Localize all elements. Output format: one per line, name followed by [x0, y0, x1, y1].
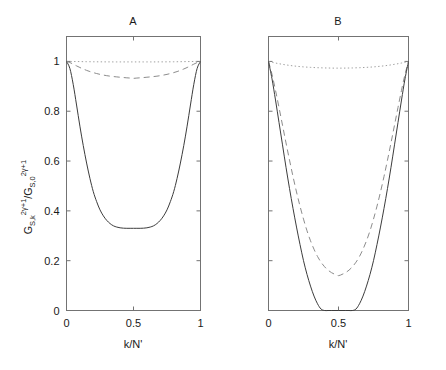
- ylabel-sub-2: S,0: [28, 176, 37, 187]
- ylabel-base-1: G: [22, 226, 34, 234]
- ylabel-base-2: G: [22, 188, 34, 196]
- panel-a: A 00.20.40.60.8100.51 k/N': [44, 15, 203, 350]
- y-tick-label: 0.6: [44, 155, 59, 167]
- y-tick-label: 0.8: [44, 105, 59, 117]
- shared-y-axis-label: GS,k2γ+1/GS,02γ+1: [19, 160, 37, 234]
- ylabel-sup-1: 2γ+1: [19, 199, 28, 215]
- panel-a-ticks: [67, 37, 201, 311]
- panel-a-title: A: [129, 15, 137, 27]
- panel-b: B 00.51 k/N': [265, 15, 411, 350]
- panel-b-title: B: [334, 15, 341, 27]
- y-tick-label: 0.2: [44, 255, 59, 267]
- y-tick-label: 0: [53, 305, 59, 317]
- x-tick-label: 0.5: [331, 317, 346, 329]
- curve-dashed: [67, 61, 201, 78]
- y-tick-label: 1: [53, 55, 59, 67]
- panel-b-curves: [269, 61, 409, 310]
- y-tick-label: 0.4: [44, 205, 59, 217]
- panel-a-axes-frame: [67, 37, 201, 311]
- x-tick-label: 0: [63, 317, 69, 329]
- curve-dashed: [269, 61, 409, 275]
- ylabel-sup-2: 2γ+1: [19, 160, 28, 176]
- curve-solid: [67, 61, 201, 228]
- panel-b-tick-labels: 00.51: [265, 317, 411, 329]
- x-tick-label: 0: [265, 317, 271, 329]
- curve-dotted: [269, 61, 409, 68]
- ylabel-sub-1: S,k: [28, 215, 37, 226]
- curve-solid: [269, 61, 409, 310]
- panel-a-x-axis-label: k/N': [124, 338, 143, 350]
- figure-canvas: GS,k2γ+1/GS,02γ+1 A 00.20.40.60.8100.51 …: [0, 0, 446, 370]
- curve-dotted: [67, 61, 201, 62]
- x-tick-label: 1: [197, 317, 203, 329]
- panel-b-x-axis-label: k/N': [329, 338, 348, 350]
- panel-a-curves: [67, 61, 201, 228]
- panel-b-axes-frame: [269, 37, 409, 311]
- panel-a-tick-labels: 00.20.40.60.8100.51: [44, 55, 203, 328]
- x-tick-label: 0.5: [126, 317, 141, 329]
- x-tick-label: 1: [405, 317, 411, 329]
- svg-text:GS,k2γ+1/GS,02γ+1: GS,k2γ+1/GS,02γ+1: [19, 160, 37, 234]
- panel-b-ticks: [269, 37, 409, 311]
